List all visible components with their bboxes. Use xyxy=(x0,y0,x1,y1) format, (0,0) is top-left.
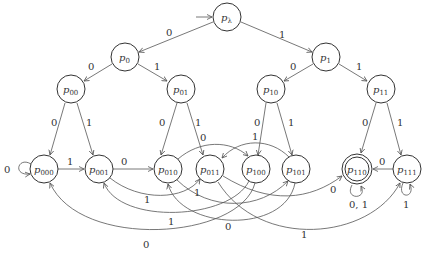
edge-label: 1 xyxy=(67,156,73,167)
edge-pl-p0 xyxy=(139,22,213,52)
edge-p001-p011 xyxy=(110,178,200,195)
edge-label: 0 xyxy=(362,117,368,128)
edge-label: 0 xyxy=(200,132,206,143)
edge-p10-p100 xyxy=(258,103,266,155)
edge-p1-p11 xyxy=(339,64,367,81)
edge-label: 1 xyxy=(144,194,150,205)
state-p000: p000 xyxy=(30,155,58,183)
edge-p000-self xyxy=(19,162,31,174)
edge-label: 0 xyxy=(121,156,127,167)
edge-label: 0 xyxy=(379,156,385,167)
edge-p01-p010 xyxy=(161,103,177,155)
state-p00: p00 xyxy=(57,75,85,103)
edge-label: 1 xyxy=(279,29,285,40)
edge-label: 1 xyxy=(397,117,403,128)
state-p010: p010 xyxy=(154,155,182,183)
edge-p011-p111 xyxy=(218,182,400,229)
edge-label: 0 xyxy=(254,117,260,128)
edge-p11-p110 xyxy=(361,103,376,153)
edge-label: 0 xyxy=(159,117,165,128)
state-p0: p0 xyxy=(111,43,139,71)
edge-label: 0 xyxy=(290,61,296,72)
edge-p110-self xyxy=(350,185,362,196)
edge-label: 1 xyxy=(168,216,174,227)
edge-label: 0, 1 xyxy=(349,199,368,210)
edge-p0-p01 xyxy=(138,64,167,81)
edge-label: 1 xyxy=(356,61,362,72)
edge-p1-p10 xyxy=(284,64,313,81)
edge-label: 1 xyxy=(301,229,307,240)
edge-label: 1 xyxy=(154,61,160,72)
edge-p10-p101 xyxy=(277,103,292,155)
automaton-diagram: 0 1 0 1 0 1 0 1 0 1 0 1 0 1 0 1 0 1 0 1 … xyxy=(0,0,427,257)
state-p01: p01 xyxy=(167,75,195,103)
state-p1: p1 xyxy=(312,43,340,71)
state-p100: p100 xyxy=(242,155,270,183)
edge-label: 1 xyxy=(86,117,92,128)
edge-label: 0 xyxy=(88,61,94,72)
state-p11: p11 xyxy=(367,75,395,103)
edge-label: 0 xyxy=(51,117,57,128)
edge-label: 1 xyxy=(194,187,200,198)
edge-p11-p111 xyxy=(387,103,401,155)
edge-p111-self xyxy=(401,183,411,195)
state-p-lambda: pλ xyxy=(213,3,241,31)
edge-p100-p001 xyxy=(104,181,249,212)
edge-label: 0 xyxy=(166,27,172,38)
edge-label: 0 xyxy=(330,184,336,195)
edge-label: 0 xyxy=(4,164,10,175)
edge-label: 1 xyxy=(252,131,258,142)
edge-p01-p011 xyxy=(187,103,203,155)
edge-pl-p1 xyxy=(241,22,312,52)
state-p011: p011 xyxy=(196,155,224,183)
edge-label: 1 xyxy=(403,199,409,210)
edge-label: 1 xyxy=(288,117,294,128)
state-p10: p10 xyxy=(257,75,285,103)
edge-label: 0 xyxy=(143,239,149,250)
state-p111: p111 xyxy=(393,155,421,183)
state-p101: p101 xyxy=(282,155,310,183)
edge-p00-p000 xyxy=(50,103,65,155)
edge-label: 0 xyxy=(225,221,231,232)
edge-p00-p001 xyxy=(77,103,93,155)
state-p001: p001 xyxy=(85,155,113,183)
state-p110-accepting: p110 xyxy=(342,154,372,184)
edge-label: 1 xyxy=(195,117,201,128)
